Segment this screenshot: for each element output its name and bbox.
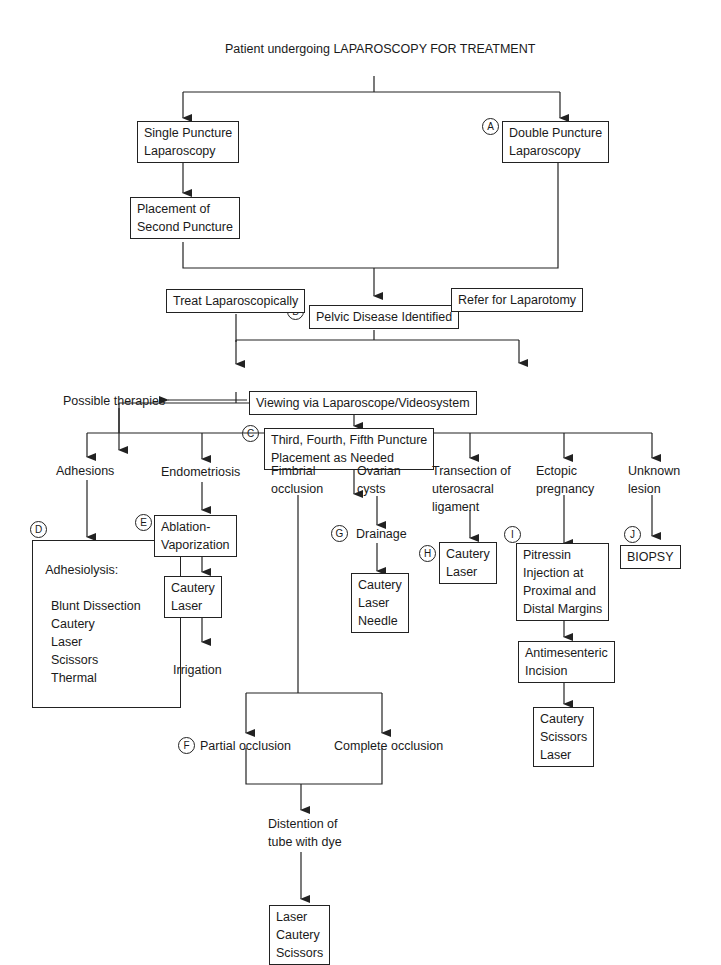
adhesiolysis-title: Adhesiolysis:	[45, 563, 118, 577]
badge-a: A	[482, 118, 499, 135]
pelvic-disease-box: Pelvic Disease Identified	[309, 305, 459, 329]
transection-label: Transection of uterosacral ligament	[432, 462, 511, 516]
badge-c: C	[242, 425, 259, 442]
drainage-label: Drainage	[356, 525, 407, 543]
title: Patient undergoing LAPAROSCOPY FOR TREAT…	[225, 40, 535, 58]
ablation-box: Ablation- Vaporization	[154, 515, 237, 557]
badge-g: G	[331, 525, 348, 542]
treat-laparoscopically-box: Treat Laparoscopically	[166, 289, 305, 313]
fimbrial-treatment-box: Laser Cautery Scissors	[269, 905, 330, 965]
ovarian-treatment-box: Cautery Laser Needle	[351, 573, 409, 633]
viewing-box: Viewing via Laparoscope/Videosystem	[249, 391, 477, 415]
ovarian-cysts-label: Ovarian cysts	[357, 462, 401, 498]
adhesions-label: Adhesions	[56, 462, 114, 480]
ectopic-treatment-box: Cautery Scissors Laser	[533, 707, 594, 767]
badge-h: H	[419, 545, 436, 562]
badge-e: E	[135, 514, 152, 531]
endometriosis-treatment-box: Cautery Laser	[164, 576, 222, 618]
pitressin-box: Pitressin Injection at Proximal and Dist…	[516, 543, 609, 621]
adhesiolysis-items: Blunt Dissection Cautery Laser Scissors …	[39, 597, 174, 687]
irrigation-label: Irrigation	[173, 661, 222, 679]
badge-j: J	[624, 526, 641, 543]
ectopic-label: Ectopic pregnancy	[536, 462, 594, 498]
possible-therapies: Possible therapies	[63, 392, 165, 410]
adhesiolysis-box: Adhesiolysis: Blunt Dissection Cautery L…	[32, 540, 181, 708]
badge-i: I	[504, 526, 521, 543]
second-puncture-box: Placement of Second Puncture	[130, 197, 240, 239]
single-puncture-box: Single Puncture Laparoscopy	[137, 121, 239, 163]
double-puncture-box: Double Puncture Laparoscopy	[502, 121, 609, 163]
badge-d: D	[30, 521, 47, 538]
biopsy-box: BIOPSY	[620, 545, 681, 569]
badge-f: F	[178, 737, 195, 754]
unknown-lesion-label: Unknown lesion	[628, 462, 680, 498]
refer-laparotomy-box: Refer for Laparotomy	[451, 288, 583, 312]
endometriosis-label: Endometriosis	[161, 463, 240, 481]
complete-occlusion-label: Complete occlusion	[334, 737, 443, 755]
antimesenteric-box: Antimesenteric Incision	[518, 641, 615, 683]
distention-label: Distention of tube with dye	[268, 815, 342, 851]
transection-treatment-box: Cautery Laser	[439, 542, 497, 584]
fimbrial-label: Fimbrial occlusion	[271, 462, 323, 498]
partial-occlusion-label: Partial occlusion	[200, 737, 291, 755]
